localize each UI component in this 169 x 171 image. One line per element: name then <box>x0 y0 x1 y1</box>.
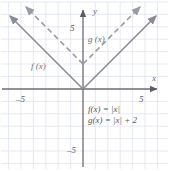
equation-g: g(x) = |x| + 2 <box>88 116 137 125</box>
axis-x-label: x <box>152 74 156 83</box>
tick-label-y-pos5: 5 <box>70 24 75 33</box>
curve-label-f: f (x) <box>31 62 46 71</box>
graph-figure: y x f (x) g (x) –5 5 5 –5 f(x) = |x| g(x… <box>0 0 169 171</box>
tick-label-x-pos5: 5 <box>139 95 144 104</box>
curve-label-g: g (x) <box>88 35 105 44</box>
grid-lines <box>1 2 168 169</box>
equation-f: f(x) = |x| <box>88 105 120 114</box>
tick-label-y-neg5: –5 <box>67 146 76 155</box>
axis-y-label: y <box>93 7 97 16</box>
coordinate-plane <box>0 0 169 171</box>
tick-label-x-neg5: –5 <box>16 95 25 104</box>
